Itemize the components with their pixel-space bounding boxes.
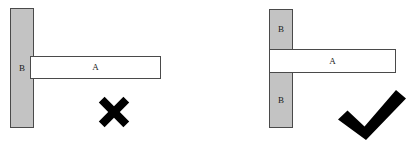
connection-detail-figure: B A B B A [0, 0, 416, 150]
member-label-a: A [92, 63, 99, 72]
member-label-b: B [19, 64, 25, 73]
member-beam-a: A [30, 56, 161, 79]
cross-mark-icon [98, 96, 130, 128]
member-column-b-lower: B [269, 72, 293, 128]
panel-incorrect-detail: B A [0, 0, 208, 150]
member-column-b-upper: B [269, 9, 293, 50]
check-mark-icon [338, 90, 406, 140]
member-label-b-upper: B [278, 25, 284, 34]
member-label-b-lower: B [278, 96, 284, 105]
panel-correct-detail: B B A [208, 0, 416, 150]
member-label-a: A [329, 57, 336, 66]
member-beam-a: A [269, 49, 396, 73]
